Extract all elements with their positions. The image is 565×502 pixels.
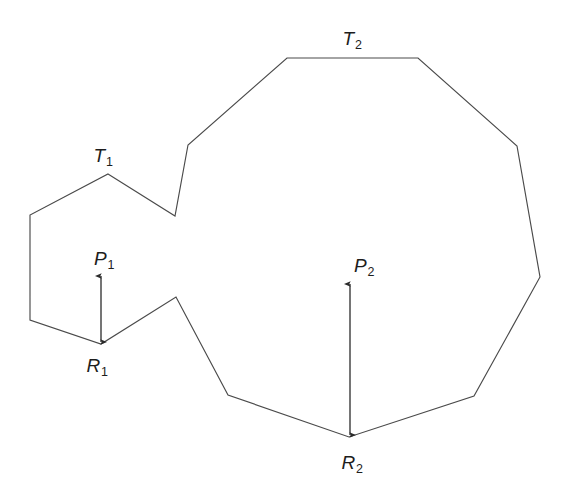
label-t2-base: T [343,28,355,49]
label-r1: R1 [87,356,108,375]
label-t2: T2 [343,29,362,48]
label-t1: T1 [94,146,113,165]
label-p2-base: P [354,255,367,276]
label-r2-sub: 2 [356,462,363,476]
label-t1-sub: 1 [106,155,113,169]
label-p1-base: P [94,248,107,269]
label-p1-sub: 1 [107,258,114,272]
diagram-canvas [0,0,565,502]
label-r2: R2 [342,453,363,472]
label-r1-base: R [87,355,101,376]
label-p1: P1 [94,249,114,268]
label-t2-sub: 2 [355,38,362,52]
label-r1-sub: 1 [101,365,108,379]
label-p2-sub: 2 [367,265,374,279]
label-r2-base: R [342,452,356,473]
label-t1-base: T [94,145,106,166]
label-p2: P2 [354,256,374,275]
polygon-diagram: T1 T2 P1 P2 R1 R2 [0,0,565,502]
